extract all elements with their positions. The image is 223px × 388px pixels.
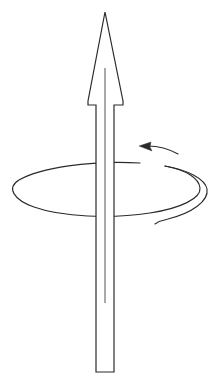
figure-canvas: Spin axis with rotation direction A tall…	[0, 0, 223, 388]
rotation-axis-figure: Spin axis with rotation direction A tall…	[0, 0, 223, 388]
